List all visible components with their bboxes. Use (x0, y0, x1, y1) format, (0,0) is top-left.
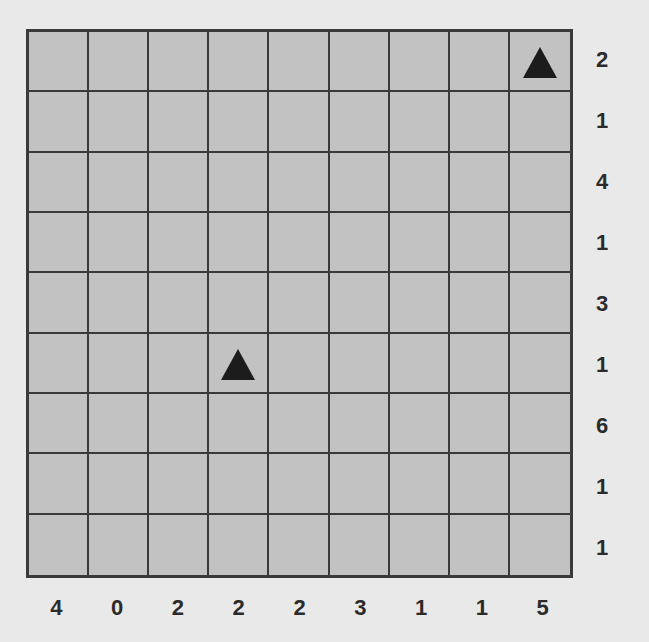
puzzle-grid (26, 29, 573, 578)
grid-cell-r7-c1[interactable] (89, 454, 149, 514)
grid-cell-r7-c2[interactable] (149, 454, 209, 514)
grid-cell-r6-c2[interactable] (149, 394, 209, 454)
grid-cell-r4-c1[interactable] (89, 273, 149, 333)
grid-cell-r2-c3[interactable] (209, 153, 269, 213)
grid-cell-r4-c0[interactable] (29, 273, 89, 333)
row-clue-7: 1 (590, 474, 614, 500)
row-clue-3: 1 (590, 230, 614, 256)
grid-cell-r0-c5[interactable] (330, 32, 390, 92)
grid-cell-r1-c3[interactable] (209, 92, 269, 152)
column-clue-4: 2 (285, 595, 315, 621)
grid-cell-r1-c4[interactable] (269, 92, 329, 152)
grid-cell-r8-c2[interactable] (149, 515, 209, 575)
grid-cell-r4-c4[interactable] (269, 273, 329, 333)
grid-cell-r1-c6[interactable] (390, 92, 450, 152)
column-clue-6: 1 (406, 595, 436, 621)
grid-cell-r6-c3[interactable] (209, 394, 269, 454)
grid-cell-r2-c8[interactable] (510, 153, 570, 213)
grid-cell-r8-c5[interactable] (330, 515, 390, 575)
grid-cell-r8-c4[interactable] (269, 515, 329, 575)
grid-cell-r6-c8[interactable] (510, 394, 570, 454)
grid-cell-r6-c4[interactable] (269, 394, 329, 454)
grid-cell-r7-c3[interactable] (209, 454, 269, 514)
grid-cell-r5-c5[interactable] (330, 334, 390, 394)
grid-cell-r1-c1[interactable] (89, 92, 149, 152)
grid-cell-r2-c4[interactable] (269, 153, 329, 213)
grid-cell-r1-c8[interactable] (510, 92, 570, 152)
grid-cell-r5-c7[interactable] (450, 334, 510, 394)
column-clue-0: 4 (41, 595, 71, 621)
grid-cell-r0-c0[interactable] (29, 32, 89, 92)
grid-cell-r2-c2[interactable] (149, 153, 209, 213)
row-clue-6: 6 (590, 413, 614, 439)
column-clue-1: 0 (102, 595, 132, 621)
grid-cell-r5-c4[interactable] (269, 334, 329, 394)
grid-cell-r5-c1[interactable] (89, 334, 149, 394)
grid-cell-r0-c3[interactable] (209, 32, 269, 92)
grid-cell-r5-c3[interactable] (209, 334, 269, 394)
grid-cell-r3-c3[interactable] (209, 213, 269, 273)
grid-cell-r0-c4[interactable] (269, 32, 329, 92)
grid-cell-r3-c0[interactable] (29, 213, 89, 273)
triangle-icon (523, 47, 557, 78)
grid-cell-r8-c0[interactable] (29, 515, 89, 575)
grid-cell-r0-c2[interactable] (149, 32, 209, 92)
grid-cell-r8-c8[interactable] (510, 515, 570, 575)
grid-cell-r4-c5[interactable] (330, 273, 390, 333)
grid-cell-r6-c1[interactable] (89, 394, 149, 454)
row-clue-4: 3 (590, 291, 614, 317)
grid-cell-r5-c6[interactable] (390, 334, 450, 394)
grid-cell-r5-c2[interactable] (149, 334, 209, 394)
grid-cell-r1-c2[interactable] (149, 92, 209, 152)
triangle-icon (221, 349, 255, 380)
grid-cell-r5-c0[interactable] (29, 334, 89, 394)
grid-cell-r7-c4[interactable] (269, 454, 329, 514)
grid-cell-r0-c1[interactable] (89, 32, 149, 92)
grid-cell-r4-c7[interactable] (450, 273, 510, 333)
grid-cell-r3-c1[interactable] (89, 213, 149, 273)
grid-cell-r4-c3[interactable] (209, 273, 269, 333)
grid-cell-r0-c6[interactable] (390, 32, 450, 92)
grid-cell-r6-c6[interactable] (390, 394, 450, 454)
grid-cell-r1-c5[interactable] (330, 92, 390, 152)
grid-cell-r8-c3[interactable] (209, 515, 269, 575)
grid-cell-r2-c0[interactable] (29, 153, 89, 213)
grid-cell-r7-c8[interactable] (510, 454, 570, 514)
grid-cell-r2-c7[interactable] (450, 153, 510, 213)
grid-cell-r6-c7[interactable] (450, 394, 510, 454)
grid-cell-r1-c0[interactable] (29, 92, 89, 152)
grid-cell-r3-c4[interactable] (269, 213, 329, 273)
grid-cell-r4-c6[interactable] (390, 273, 450, 333)
grid-cell-r5-c8[interactable] (510, 334, 570, 394)
grid-cell-r4-c2[interactable] (149, 273, 209, 333)
grid-cell-r8-c6[interactable] (390, 515, 450, 575)
grid-cell-r8-c7[interactable] (450, 515, 510, 575)
column-clue-3: 2 (224, 595, 254, 621)
grid-cell-r3-c2[interactable] (149, 213, 209, 273)
grid-cell-r3-c8[interactable] (510, 213, 570, 273)
column-clue-5: 3 (345, 595, 375, 621)
row-clue-5: 1 (590, 352, 614, 378)
column-clue-2: 2 (163, 595, 193, 621)
grid-cell-r7-c6[interactable] (390, 454, 450, 514)
grid-cell-r7-c5[interactable] (330, 454, 390, 514)
column-clue-8: 5 (528, 595, 558, 621)
grid-cell-r6-c0[interactable] (29, 394, 89, 454)
row-clue-8: 1 (590, 535, 614, 561)
grid-cell-r2-c5[interactable] (330, 153, 390, 213)
column-clue-7: 1 (467, 595, 497, 621)
grid-cell-r1-c7[interactable] (450, 92, 510, 152)
grid-cell-r2-c6[interactable] (390, 153, 450, 213)
grid-cell-r2-c1[interactable] (89, 153, 149, 213)
grid-cell-r7-c7[interactable] (450, 454, 510, 514)
grid-cell-r3-c5[interactable] (330, 213, 390, 273)
grid-cell-r8-c1[interactable] (89, 515, 149, 575)
grid-cell-r6-c5[interactable] (330, 394, 390, 454)
grid-cell-r3-c7[interactable] (450, 213, 510, 273)
grid-cell-r0-c7[interactable] (450, 32, 510, 92)
row-clue-1: 1 (590, 108, 614, 134)
grid-cell-r0-c8[interactable] (510, 32, 570, 92)
grid-cell-r3-c6[interactable] (390, 213, 450, 273)
grid-cell-r7-c0[interactable] (29, 454, 89, 514)
grid-cell-r4-c8[interactable] (510, 273, 570, 333)
